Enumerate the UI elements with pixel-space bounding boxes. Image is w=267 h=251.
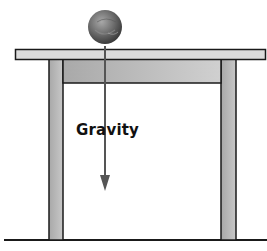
gravity-diagram: Gravity [0, 0, 267, 251]
table-right-leg [221, 59, 236, 240]
table-top [16, 50, 266, 60]
table-apron [63, 59, 221, 83]
arrowhead-icon [100, 175, 110, 191]
gravity-label: Gravity [76, 121, 139, 139]
table-left-leg [49, 59, 63, 240]
ball [88, 10, 122, 44]
